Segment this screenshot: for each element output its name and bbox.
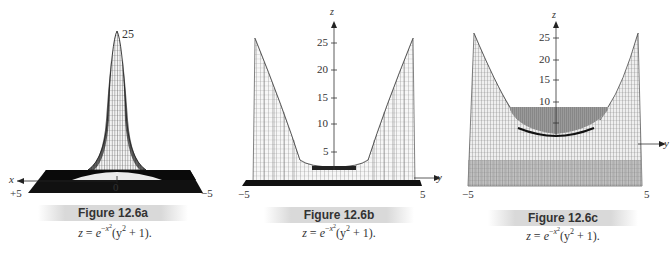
z-tick-10: 10 <box>317 118 328 129</box>
figure-formula: z = e−x2(y2 + 1). <box>468 229 658 244</box>
figure-12-6b: z 25 20 15 10 5 y −5 5 Figure 12.6b z = … <box>224 0 448 255</box>
caption-bar: Figure 12.6b <box>264 207 414 223</box>
z-tick-5: 5 <box>323 146 329 157</box>
caption-bar: Figure 12.6c <box>488 210 638 226</box>
caption-bar: Figure 12.6a <box>38 205 188 221</box>
z-tick-25: 25 <box>317 37 328 48</box>
y-right-end-label: 5 <box>420 189 426 200</box>
figure-caption: Figure 12.6a <box>38 206 188 220</box>
z-tick-25: 25 <box>539 32 550 43</box>
figure-12-6a: 25 x 0 +5 −5 Figure 12.6a z = e−x2(y2 + … <box>0 0 224 255</box>
surface-plot-a <box>0 0 224 205</box>
z-axis-label: z <box>330 7 334 17</box>
figure-formula: z = e−x2(y2 + 1). <box>244 226 434 241</box>
origin-label: 0 <box>113 182 119 193</box>
y-axis-label: y <box>437 172 442 183</box>
x-left-end-label: +5 <box>10 188 22 199</box>
y-left-end-label: −5 <box>462 189 474 200</box>
surface-plot-b <box>224 0 448 205</box>
figure-12-6c: z 25 20 15 10 y −5 5 Figure 12.6c z = e−… <box>448 0 672 255</box>
y-axis-label: y <box>664 138 669 149</box>
z-tick-20: 20 <box>539 54 550 65</box>
z-tick-15: 15 <box>317 92 328 103</box>
x-right-end-label: −5 <box>201 188 213 199</box>
surface-plot-c <box>448 0 672 205</box>
figure-formula: z = e−x2(y2 + 1). <box>20 226 210 241</box>
z-tick-20: 20 <box>317 64 328 75</box>
x-axis-label: x <box>9 174 14 185</box>
peak-label: 25 <box>122 28 134 40</box>
z-tick-10: 10 <box>539 96 550 107</box>
y-right-end-label: 5 <box>644 189 650 200</box>
z-tick-15: 15 <box>539 74 550 85</box>
figure-caption: Figure 12.6c <box>488 211 638 225</box>
z-axis-label: z <box>552 10 556 20</box>
y-left-end-label: −5 <box>238 189 250 200</box>
figure-caption: Figure 12.6b <box>264 208 414 222</box>
